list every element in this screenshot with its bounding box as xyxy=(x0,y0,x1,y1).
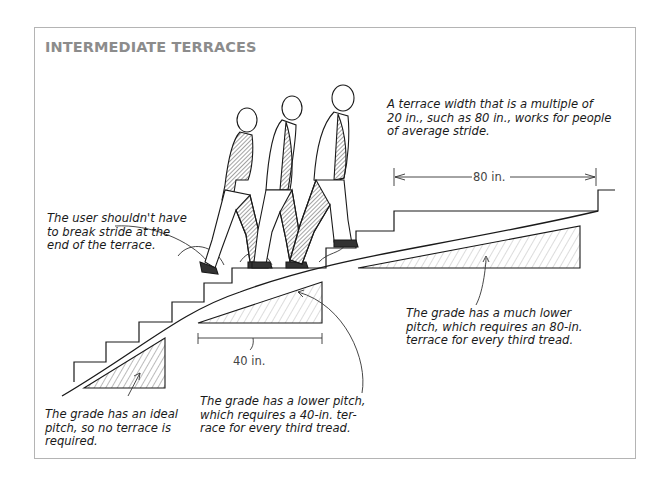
note-stride: The user shouldn't have to break stride … xyxy=(47,212,187,253)
note-much-lower-pitch: The grade has a much lower pitch, which … xyxy=(406,307,582,348)
lower-pitch-triangle xyxy=(198,282,322,323)
ideal-pitch-triangle xyxy=(84,338,165,388)
label-80-in: 80 in. xyxy=(473,170,505,184)
much-lower-pitch-triangle xyxy=(358,226,580,268)
note-terrace-width: A terrace width that is a multiple of 20… xyxy=(387,98,611,139)
note-ideal-pitch: The grade has an ideal pitch, so no terr… xyxy=(45,408,178,449)
label-40-in: 40 in. xyxy=(233,354,265,368)
dimension-40-in xyxy=(198,333,322,350)
note-lower-pitch: The grade has a lower pitch, which requi… xyxy=(200,395,366,436)
